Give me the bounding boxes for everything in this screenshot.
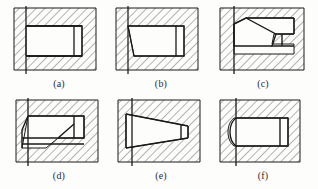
figure-root: (a) (b) (c) bbox=[0, 0, 318, 189]
pocket-taper-c bbox=[246, 18, 294, 34]
panel-e-drawing bbox=[108, 96, 214, 168]
pocket-outline-d bbox=[28, 116, 84, 138]
panel-caption-d: (d) bbox=[6, 170, 112, 181]
panel-caption-b: (b) bbox=[108, 78, 214, 89]
panel-c: (c) bbox=[210, 4, 316, 98]
panel-d-drawing bbox=[6, 96, 112, 168]
panel-caption-e: (e) bbox=[108, 170, 214, 181]
pocket-lower-c bbox=[234, 24, 272, 46]
panel-d: (d) bbox=[6, 96, 112, 189]
panel-caption-c: (c) bbox=[210, 78, 316, 89]
panel-a-drawing bbox=[6, 4, 112, 76]
panel-caption-a: (a) bbox=[6, 78, 112, 89]
panel-f-drawing bbox=[210, 96, 316, 168]
panel-caption-f: (f) bbox=[210, 170, 316, 181]
hatched-material-c bbox=[220, 8, 304, 70]
panel-c-drawing bbox=[210, 4, 316, 76]
panel-b: (b) bbox=[108, 4, 214, 98]
pocket-round-edge-f bbox=[230, 118, 236, 146]
pocket-diagonal-d bbox=[22, 124, 74, 138]
panel-a: (a) bbox=[6, 4, 112, 98]
panel-f: (f) bbox=[210, 96, 316, 189]
panel-b-drawing bbox=[108, 4, 214, 76]
panel-e: (e) bbox=[108, 96, 214, 189]
pocket-outline-c bbox=[234, 18, 294, 24]
